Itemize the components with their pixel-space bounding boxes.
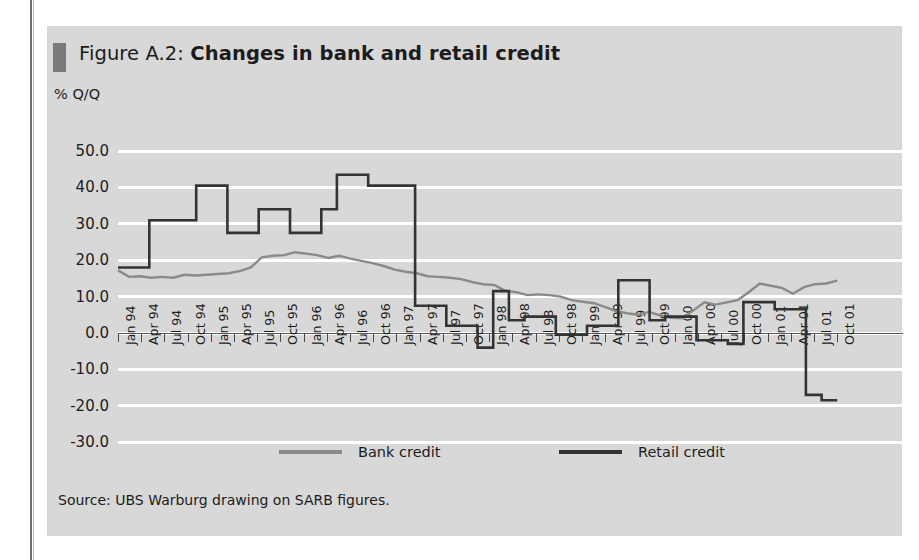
- legend-item-bank-credit: Bank credit: [279, 444, 440, 460]
- legend-swatch-retail-credit: [559, 450, 622, 454]
- y-axis-unit-label: % Q/Q: [54, 86, 100, 102]
- page-title: Figure A.2: Changes in bank and retail c…: [79, 42, 560, 65]
- y-axis-tick-label: 40.0: [76, 178, 109, 196]
- legend-swatch-bank-credit: [279, 450, 342, 454]
- series-line-bank-credit: [118, 252, 837, 318]
- y-axis-tick-label: -20.0: [70, 396, 109, 414]
- legend-label-bank-credit: Bank credit: [358, 444, 440, 460]
- figure-source: Source: UBS Warburg drawing on SARB figu…: [58, 492, 390, 508]
- figure-page: Figure A.2: Changes in bank and retail c…: [0, 0, 919, 560]
- series-line-retail-credit: [118, 175, 837, 401]
- figure-number: Figure A.2:: [79, 42, 184, 65]
- chart-legend: Bank credit Retail credit: [47, 444, 902, 470]
- y-axis-tick-label: 10.0: [76, 287, 109, 305]
- page-edge-rule-shadow: [33, 0, 34, 560]
- legend-item-retail-credit: Retail credit: [559, 444, 725, 460]
- y-axis-tick-label: 30.0: [76, 214, 109, 232]
- y-axis-tick-label: -10.0: [70, 360, 109, 378]
- plot-region: 50.040.030.020.010.00.0-10.0-20.0-30.0Ja…: [118, 151, 903, 331]
- page-edge-rule: [30, 0, 32, 560]
- figure-panel: Figure A.2: Changes in bank and retail c…: [47, 26, 902, 536]
- plot-area: 50.040.030.020.010.00.0-10.0-20.0-30.0Ja…: [118, 151, 903, 331]
- figure-title-bar: Figure A.2: Changes in bank and retail c…: [47, 40, 902, 74]
- figure-title-text: Changes in bank and retail credit: [190, 42, 560, 65]
- y-axis-tick-label: 50.0: [76, 142, 109, 160]
- y-axis-tick-label: 20.0: [76, 251, 109, 269]
- legend-label-retail-credit: Retail credit: [638, 444, 725, 460]
- title-accent-bar: [53, 43, 66, 72]
- y-axis-tick-label: 0.0: [85, 324, 109, 342]
